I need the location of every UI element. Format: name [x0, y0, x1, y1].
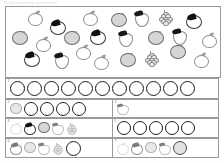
dark-fruit-icon: [90, 29, 104, 43]
dark-fruit-icon: [50, 19, 64, 33]
answer-circle[interactable]: [181, 121, 195, 135]
dark-fruit-icon: [24, 51, 38, 65]
strawberry-icon: [117, 104, 127, 114]
circle-group[interactable]: [6, 79, 218, 98]
orange-icon: [202, 33, 215, 46]
strawberry-icon: [134, 11, 148, 25]
answer-row-1: 1: [5, 78, 219, 99]
answer-cell-3[interactable]: 3: [112, 100, 218, 117]
answer-cell-5[interactable]: 5: [112, 119, 218, 137]
orange-icon: [83, 11, 96, 24]
answer-circle[interactable]: [149, 121, 163, 135]
strawberry-icon: [159, 143, 169, 153]
mixed-group[interactable]: [113, 139, 218, 157]
circle-group[interactable]: [113, 119, 218, 137]
orange-icon: [36, 37, 49, 50]
answer-circle[interactable]: [66, 141, 81, 156]
grapes-icon: [66, 123, 76, 133]
fruit-scatter-panel: [5, 6, 221, 78]
answer-circle[interactable]: [129, 81, 144, 96]
answer-circle[interactable]: [24, 102, 38, 116]
dark-fruit-icon: [131, 143, 141, 153]
answer-circle[interactable]: [40, 102, 54, 116]
apple-icon: [10, 104, 20, 114]
answer-cell-6[interactable]: 6: [6, 139, 112, 157]
answer-cell-7[interactable]: 7: [112, 139, 218, 157]
worksheet-page: Fruit counting worksheet 1 2 3 4 5: [0, 0, 224, 163]
answer-circle[interactable]: [163, 81, 178, 96]
answer-cell-2[interactable]: 2: [6, 100, 112, 117]
dark-fruit-icon: [10, 143, 20, 153]
orange-icon: [117, 143, 127, 153]
answer-row-4: 6 7: [5, 138, 219, 158]
circle-group[interactable]: [6, 100, 112, 117]
apple-icon: [38, 123, 48, 133]
orange-icon: [194, 53, 207, 66]
answer-circle[interactable]: [78, 81, 93, 96]
answer-circle[interactable]: [44, 81, 59, 96]
answer-circle[interactable]: [95, 81, 110, 96]
answer-circle[interactable]: [27, 81, 42, 96]
strawberry-icon: [118, 31, 132, 45]
apple-icon: [120, 53, 134, 67]
answer-circle[interactable]: [10, 81, 25, 96]
header-text: Fruit counting worksheet: [4, 0, 57, 5]
answer-row-2: 2 3: [5, 99, 219, 118]
apple-icon: [170, 45, 184, 59]
answer-circle[interactable]: [112, 81, 127, 96]
answer-cell-1[interactable]: 1: [6, 79, 218, 98]
dark-fruit-icon: [24, 123, 34, 133]
apple-icon: [12, 31, 26, 45]
strawberry-icon: [52, 123, 62, 133]
apple-icon: [111, 13, 125, 27]
answer-row-3: 4 5: [5, 118, 219, 138]
answer-cell-4[interactable]: 4: [6, 119, 112, 137]
apple-icon: [145, 143, 155, 153]
circle-group[interactable]: [113, 100, 218, 117]
apple-icon: [64, 31, 78, 45]
dark-fruit-icon: [186, 13, 200, 27]
strawberry-icon: [172, 29, 186, 43]
answer-circle[interactable]: [61, 81, 76, 96]
answer-circle[interactable]: [72, 102, 86, 116]
grapes-icon: [52, 143, 62, 153]
orange-icon: [28, 11, 41, 24]
answer-circle[interactable]: [56, 102, 70, 116]
answer-circle[interactable]: [180, 81, 195, 96]
apple-icon: [148, 31, 162, 45]
answer-circle[interactable]: [117, 121, 131, 135]
mixed-group[interactable]: [6, 139, 112, 157]
orange-icon: [76, 45, 89, 58]
fruit-group[interactable]: [6, 119, 112, 137]
grapes-icon: [144, 51, 158, 65]
strawberry-icon: [38, 143, 48, 153]
apple-icon: [24, 143, 34, 153]
strawberry-icon: [54, 53, 68, 67]
orange-icon: [94, 55, 107, 68]
answer-circle[interactable]: [165, 121, 179, 135]
orange-icon: [10, 123, 20, 133]
grapes-icon: [158, 10, 172, 24]
answer-circle[interactable]: [133, 121, 147, 135]
filled-circle: [173, 141, 187, 155]
answer-circle[interactable]: [146, 81, 161, 96]
